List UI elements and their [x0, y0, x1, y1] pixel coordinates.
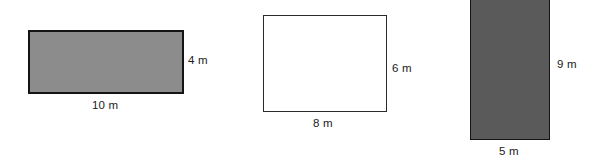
figure-rectangle-2: 6 m 8 m [240, 0, 430, 164]
rectangle-shape-1 [28, 30, 184, 94]
rectangle-1-height-label: 4 m [188, 54, 208, 67]
diagram-canvas: 4 m 10 m 6 m 8 m 9 m 5 m [0, 0, 602, 164]
rectangle-3-width-label: 5 m [499, 145, 519, 158]
rectangle-1-width-label: 10 m [92, 99, 118, 112]
rectangle-2-width-label: 8 m [313, 117, 333, 130]
rectangle-2-height-label: 6 m [392, 62, 412, 75]
rectangle-shape-2 [263, 15, 387, 112]
rectangle-shape-3 [470, 0, 550, 140]
figure-rectangle-3: 9 m 5 m [430, 0, 602, 164]
figure-rectangle-1: 4 m 10 m [0, 0, 240, 164]
rectangle-3-height-label: 9 m [557, 58, 577, 71]
